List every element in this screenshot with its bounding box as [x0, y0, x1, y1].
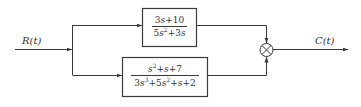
block-g1-denominator: 5s2+3s — [153, 26, 185, 38]
block-g1-numerator: 3s+10 — [155, 15, 185, 25]
g1-to-junction-line — [197, 26, 267, 44]
g2-to-junction-line — [208, 57, 267, 76]
block-g2: s2+s+7 3s3+5s2+s+2 — [123, 58, 208, 97]
summing-junction-icon — [260, 44, 273, 57]
output-label: C(t) — [315, 35, 335, 46]
block-diagram: R(t) 3s+10 5s2+3s s2+s+7 3s3+5s2+s+2 C(t… — [0, 0, 361, 107]
input-label: R(t) — [21, 35, 41, 46]
block-g1: 3s+10 5s2+3s — [143, 9, 197, 47]
block-g2-denominator: 3s3+5s2+s+2 — [134, 76, 195, 88]
